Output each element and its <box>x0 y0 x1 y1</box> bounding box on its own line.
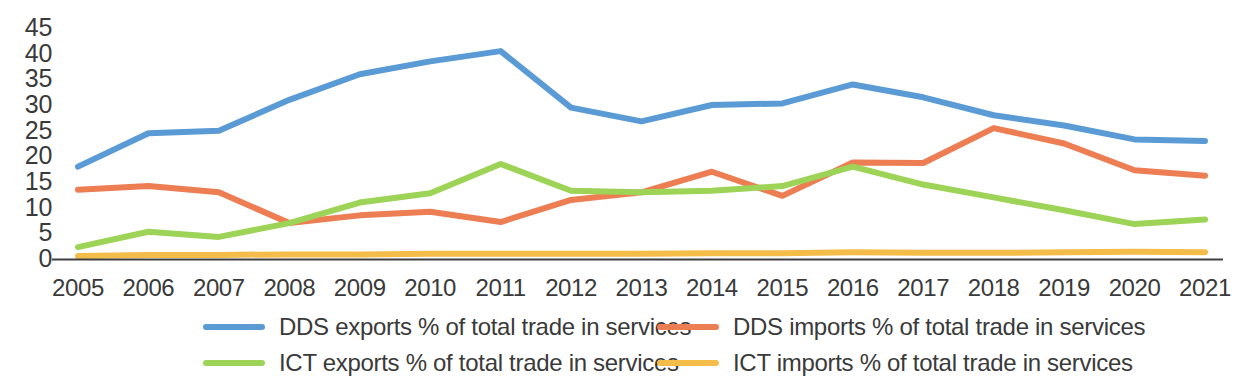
plot-area: 454035302520151050 <box>0 0 1223 300</box>
x-axis-tick-label: 2005 <box>38 276 118 300</box>
x-axis-tick-label: 2013 <box>602 276 682 300</box>
y-axis: 454035302520151050 <box>0 0 52 300</box>
x-axis-tick-label: 2018 <box>954 276 1034 300</box>
x-axis-tick-label: 2011 <box>461 276 541 300</box>
x-axis-tick-label: 2015 <box>742 276 822 300</box>
series-line-0 <box>78 51 1205 167</box>
legend-swatch-icon <box>203 324 265 330</box>
series-layer <box>78 51 1205 256</box>
y-axis-tick-label: 30 <box>8 92 52 117</box>
y-axis-tick-label: 20 <box>8 143 52 168</box>
y-axis-tick-label: 5 <box>8 220 52 245</box>
x-axis-tick-label: 2006 <box>108 276 188 300</box>
x-axis-tick-label: 2021 <box>1165 276 1235 300</box>
legend-item[interactable]: DDS exports % of total trade in services <box>203 312 691 342</box>
y-axis-tick-label: 25 <box>8 118 52 143</box>
x-axis-tick-label: 2019 <box>1024 276 1104 300</box>
y-axis-tick-label: 10 <box>8 195 52 220</box>
legend-swatch-icon <box>657 360 719 366</box>
x-axis: 2005200620072008200920102011201220132014… <box>0 268 1223 304</box>
legend-swatch-icon <box>203 360 265 366</box>
series-line-3 <box>78 252 1205 256</box>
y-axis-tick-label: 15 <box>8 169 52 194</box>
y-axis-tick-label: 40 <box>8 41 52 66</box>
x-axis-tick-label: 2014 <box>672 276 752 300</box>
x-axis-tick-label: 2012 <box>531 276 611 300</box>
legend-item-label: ICT imports % of total trade in services <box>733 349 1133 377</box>
x-axis-tick-label: 2009 <box>320 276 400 300</box>
x-axis-tick-label: 2007 <box>179 276 259 300</box>
legend-item-label: ICT exports % of total trade in services <box>279 349 679 377</box>
legend-swatch-icon <box>657 324 719 330</box>
y-axis-tick-label: 45 <box>8 15 52 40</box>
x-axis-tick-label: 2008 <box>249 276 329 300</box>
x-axis-tick-label: 2017 <box>883 276 963 300</box>
legend-item[interactable]: DDS imports % of total trade in services <box>657 312 1145 342</box>
x-axis-tick-label: 2016 <box>813 276 893 300</box>
plot-svg <box>0 0 1223 300</box>
series-line-1 <box>78 128 1205 223</box>
x-axis-tick-label: 2020 <box>1095 276 1175 300</box>
x-axis-tick-label: 2010 <box>390 276 470 300</box>
legend-item[interactable]: ICT imports % of total trade in services <box>657 348 1133 377</box>
y-axis-tick-label: 35 <box>8 66 52 91</box>
legend-item-label: DDS exports % of total trade in services <box>279 313 691 341</box>
legend-item[interactable]: ICT exports % of total trade in services <box>203 348 679 377</box>
legend-item-label: DDS imports % of total trade in services <box>733 313 1145 341</box>
chart-legend: DDS exports % of total trade in services… <box>0 308 1223 377</box>
